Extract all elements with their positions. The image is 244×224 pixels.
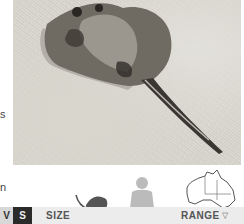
size-label: SIZE: [46, 207, 70, 224]
range-label: RANGE: [181, 207, 220, 224]
margin-text-fragment: s: [0, 108, 6, 120]
range-marker-icon: ▽: [222, 211, 228, 220]
margin-text-fragment: n: [0, 181, 6, 193]
stingray-image-icon: [13, 0, 241, 165]
status-tag-s: S: [13, 207, 32, 224]
status-tag-v: V: [0, 207, 13, 224]
stingray-photo: [13, 0, 241, 165]
